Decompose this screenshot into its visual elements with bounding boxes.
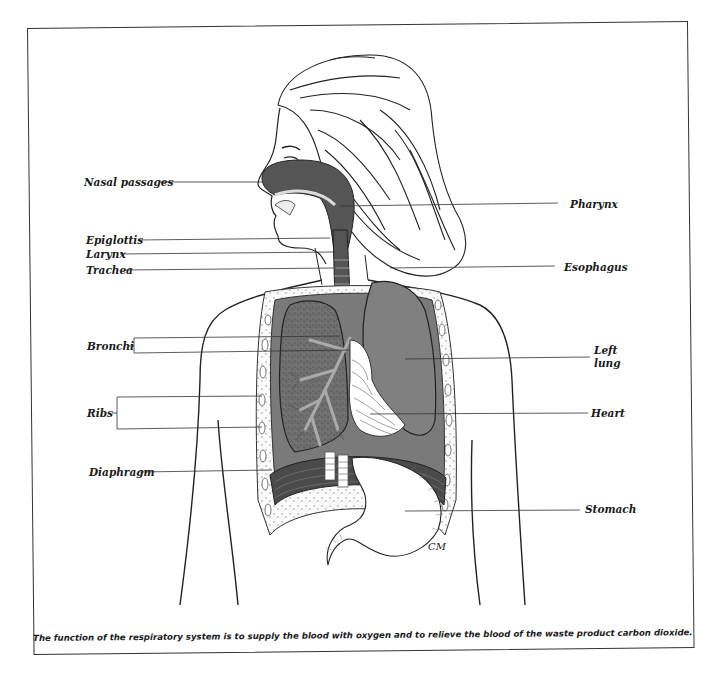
label-esophagus: Esophagus <box>564 261 628 273</box>
label-stomach: Stomach <box>585 503 636 515</box>
respiratory-illustration: CM <box>0 0 711 676</box>
teeth-shape <box>275 200 295 215</box>
label-left-lung-line2: lung <box>594 357 621 369</box>
label-epiglottis: Epiglottis <box>86 234 143 246</box>
label-left-lung-line1: Left <box>594 344 617 356</box>
label-diaphragm: Diaphragm <box>89 466 155 478</box>
label-pharynx: Pharynx <box>570 198 618 210</box>
label-larynx: Larynx <box>86 248 126 260</box>
label-bronchi: Bronchi <box>87 340 134 352</box>
label-trachea: Trachea <box>86 264 133 276</box>
label-heart: Heart <box>591 407 625 419</box>
label-nasal-passages: Nasal passages <box>84 176 173 188</box>
label-ribs: Ribs <box>87 407 113 419</box>
artist-signature: CM <box>428 541 447 552</box>
